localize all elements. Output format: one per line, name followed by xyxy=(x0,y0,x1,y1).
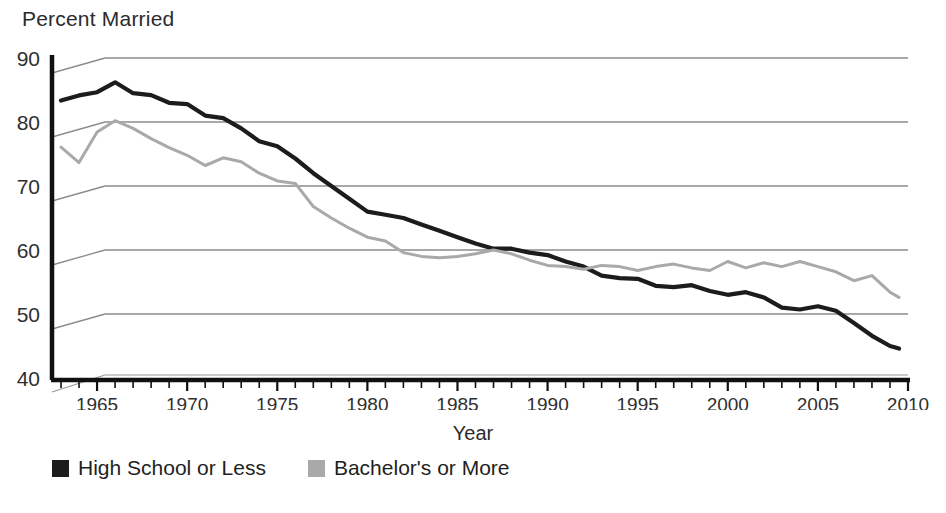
gridlines xyxy=(52,58,908,392)
svg-text:90: 90 xyxy=(17,47,40,70)
svg-text:1990: 1990 xyxy=(526,394,568,410)
svg-text:2000: 2000 xyxy=(707,394,749,410)
legend-label: High School or Less xyxy=(78,456,266,480)
x-axis-title: Year xyxy=(0,422,946,445)
legend-swatch-icon xyxy=(308,460,325,477)
plot-area: 405060708090 196519701975198019851990199… xyxy=(0,0,946,410)
x-axis-ticks xyxy=(61,382,908,391)
svg-text:1985: 1985 xyxy=(436,394,478,410)
svg-text:1965: 1965 xyxy=(76,394,118,410)
svg-text:50: 50 xyxy=(17,303,40,326)
legend-item-bachelors-or-more: Bachelor's or More xyxy=(308,456,510,480)
svg-text:1970: 1970 xyxy=(166,394,208,410)
svg-text:60: 60 xyxy=(17,239,40,262)
svg-text:40: 40 xyxy=(17,367,40,390)
legend-swatch-icon xyxy=(52,460,69,477)
legend-item-high-school-or-less: High School or Less xyxy=(52,456,266,480)
x-axis-tick-labels: 1965197019751980198519901995200020052010 xyxy=(76,394,929,410)
svg-text:2010: 2010 xyxy=(887,394,929,410)
svg-text:70: 70 xyxy=(17,175,40,198)
svg-text:1995: 1995 xyxy=(617,394,659,410)
chart-legend: High School or Less Bachelor's or More xyxy=(0,456,946,480)
svg-text:1980: 1980 xyxy=(346,394,388,410)
legend-label: Bachelor's or More xyxy=(334,456,510,480)
svg-text:1975: 1975 xyxy=(256,394,298,410)
y-axis-tick-labels: 405060708090 xyxy=(17,47,40,390)
chart-figure: Percent Married 405060708090 19651970197… xyxy=(0,0,946,513)
svg-text:2005: 2005 xyxy=(797,394,839,410)
svg-text:80: 80 xyxy=(17,111,40,134)
